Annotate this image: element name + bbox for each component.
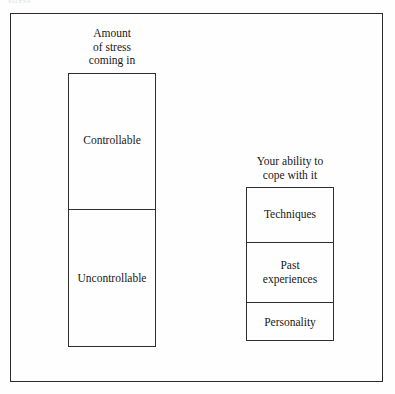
coping-stack: Techniques Past experiences Personality — [246, 187, 334, 341]
stress-column: Amount of stress coming in Controllable … — [60, 27, 164, 347]
scan-artifact-text: stress — [8, 0, 56, 4]
coping-segment-personality: Personality — [247, 302, 333, 342]
stress-coping-diagram: stress Amount of stress coming in Contro… — [0, 0, 395, 394]
coping-segment-techniques: Techniques — [247, 188, 333, 242]
coping-column-caption: Your ability to cope with it — [237, 155, 343, 182]
coping-segment-past-experiences: Past experiences — [247, 242, 333, 302]
coping-column: Your ability to cope with it Techniques … — [237, 155, 343, 341]
stress-segment-controllable: Controllable — [69, 74, 155, 209]
stress-segment-uncontrollable: Uncontrollable — [69, 209, 155, 348]
stress-stack: Controllable Uncontrollable — [68, 73, 156, 347]
stress-column-caption: Amount of stress coming in — [60, 27, 164, 68]
